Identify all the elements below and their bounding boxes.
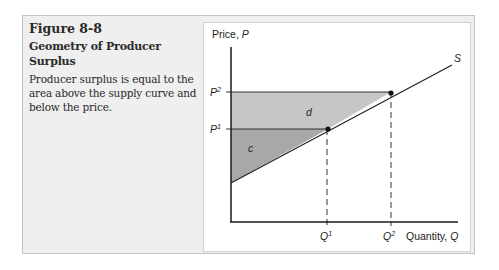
x-axis-label: Quantity, Q [406, 230, 458, 242]
equilibrium-point-2 [388, 90, 393, 95]
p1-tick-label: P1 [210, 123, 221, 135]
q1-tick-label: Q1 [320, 230, 332, 242]
y-axis-label: Price, P [212, 28, 249, 40]
region-c-label: c [248, 142, 254, 154]
q2-tick-label: Q2 [383, 230, 395, 242]
producer-surplus-chart: Price, P Quantity, Q P2 P1 Q1 Q2 S d c [0, 0, 499, 270]
equilibrium-point-1 [325, 126, 330, 131]
p2-tick-label: P2 [210, 86, 221, 98]
supply-curve-label: S [454, 52, 461, 64]
